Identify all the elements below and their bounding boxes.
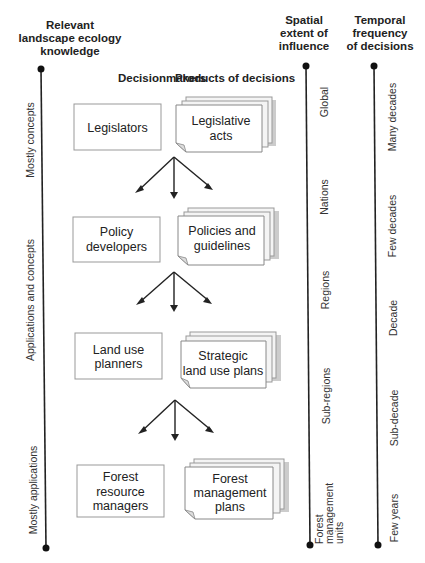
svg-text:frequency: frequency [353, 27, 409, 39]
product-label: guidelines [194, 239, 250, 253]
svg-text:Relevant: Relevant [46, 19, 94, 31]
product-label: plans [215, 500, 245, 514]
svg-text:units: units [333, 522, 345, 544]
arrow-fan [138, 400, 214, 441]
axis-end-dot [375, 542, 382, 549]
spatial-label-nations: Nations [318, 179, 330, 215]
product-label: land use plans [183, 364, 264, 378]
axis-start-dot [38, 66, 45, 73]
temporal-label-sub-decade: Sub-decade [388, 390, 400, 447]
temporal-axis: Many decades Few decades Decade Sub-deca… [371, 63, 401, 549]
decisionmaker-label: resource [96, 485, 145, 499]
header-knowledge: Relevant landscape ecology knowledge [19, 19, 123, 57]
header-products: Products of decisions [175, 72, 295, 84]
svg-text:influence: influence [279, 40, 329, 52]
product-label: Strategic [198, 349, 247, 363]
svg-text:of decisions: of decisions [346, 40, 413, 52]
product-document-stack: Policies and guidelines [178, 208, 279, 265]
decisionmaker-label: Legislators [87, 121, 147, 135]
spatial-label-regions: Regions [319, 271, 331, 310]
axis-start-dot [371, 63, 378, 70]
arrow-fan [136, 272, 212, 312]
product-label: Policies and [188, 224, 255, 238]
knowledge-axis: Mostly concepts Applications and concept… [24, 66, 50, 552]
knowledge-label-mostly-concepts: Mostly concepts [24, 102, 36, 177]
spatial-label-global: Global [318, 87, 330, 117]
product-label: Legislative [191, 114, 250, 128]
svg-text:landscape ecology: landscape ecology [19, 32, 123, 44]
product-label: Forest [212, 472, 248, 486]
product-document-stack: Strategic land use plans [181, 332, 281, 388]
landscape-ecology-decision-diagram: Relevant landscape ecology knowledge Dec… [0, 0, 425, 563]
svg-text:Spatial: Spatial [285, 14, 323, 26]
header-temporal: Temporal frequency of decisions [346, 14, 413, 52]
decisionmaker-label: Land use [93, 343, 144, 357]
product-document-stack: Forest management plans [185, 459, 289, 519]
product-label: management [194, 486, 267, 500]
axis-end-dot [43, 545, 50, 552]
level-legislators: Legislators Legislative acts [74, 97, 276, 152]
spatial-axis: Global Nations Regions Sub-regions Fores… [303, 63, 346, 549]
level-policy-developers: Policy developers Policies and guideline… [73, 208, 279, 265]
temporal-label-decade: Decade [387, 300, 399, 336]
knowledge-label-mostly-applications: Mostly applications [27, 446, 39, 535]
temporal-label-few-decades: Few decades [386, 195, 398, 257]
product-label: acts [210, 129, 233, 143]
decisionmaker-label: Policy [100, 225, 134, 239]
decisionmaker-label: developers [86, 240, 147, 254]
svg-text:knowledge: knowledge [40, 45, 99, 57]
header-spatial: Spatial extent of influence [279, 14, 329, 52]
knowledge-label-applications-and-concepts: Applications and concepts [24, 239, 36, 361]
decisionmaker-label: Forest [103, 470, 139, 484]
arrow-fan [135, 157, 213, 199]
decisionmaker-label: managers [93, 499, 149, 513]
product-document-stack: Legislative acts [176, 97, 276, 152]
level-land-use-planners: Land use planners Strategic land use pla… [75, 332, 281, 388]
temporal-label-many-decades: Many decades [386, 83, 398, 151]
level-forest-resource-managers: Forest resource managers Forest manageme… [77, 459, 289, 519]
spatial-label-sub-regions: Sub-regions [320, 368, 332, 425]
svg-text:extent of: extent of [280, 27, 328, 39]
svg-text:Temporal: Temporal [355, 14, 406, 26]
spatial-label-forest-management-units: Forest management units [313, 483, 345, 544]
axis-start-dot [303, 63, 310, 70]
decisionmaker-label: planners [95, 357, 143, 371]
temporal-label-few-years: Few years [388, 494, 400, 542]
